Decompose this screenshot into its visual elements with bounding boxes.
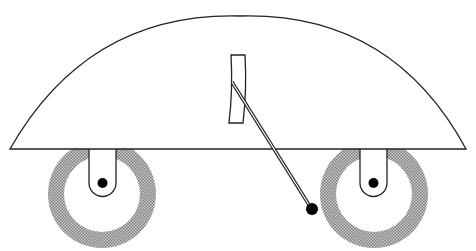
cart-diagram [0, 0, 476, 251]
left-axle [98, 178, 108, 188]
right-axle [369, 178, 379, 188]
pendulum-ball [306, 203, 318, 215]
left-fork [89, 149, 116, 196]
left-wheel [48, 140, 156, 248]
right-wheel [320, 140, 428, 248]
right-fork [360, 149, 387, 197]
diagram-canvas [0, 0, 476, 251]
